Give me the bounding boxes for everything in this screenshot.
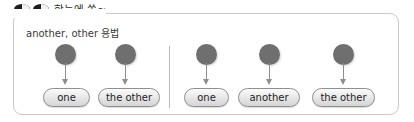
arrow-stem [269, 63, 270, 79]
pill-label-one[interactable]: one [43, 88, 90, 107]
diagram: onethe otheroneanotherthe other [0, 0, 414, 122]
group-divider [169, 46, 170, 108]
arrow-head-icon [266, 79, 272, 85]
arrow-stem [125, 63, 126, 79]
arrow-head-icon [203, 79, 209, 85]
node-circle-icon [259, 44, 280, 65]
arrow-stem [206, 63, 207, 79]
node-circle-icon [333, 44, 354, 65]
pill-label-text: one [57, 93, 76, 103]
pill-label-text: the other [106, 93, 152, 103]
pill-label-one[interactable]: one [184, 88, 229, 107]
arrow-stem [343, 63, 344, 79]
arrow-stem [65, 63, 66, 79]
arrow-head-icon [340, 79, 346, 85]
pill-label-text: the other [320, 93, 366, 103]
pill-label-the-other[interactable]: the other [98, 88, 160, 107]
pill-label-text: another [249, 93, 288, 103]
pill-label-the-other[interactable]: the other [312, 88, 375, 107]
node-circle-icon [115, 44, 136, 65]
pill-label-another[interactable]: another [238, 88, 300, 107]
node-circle-icon [55, 44, 76, 65]
node-circle-icon [196, 44, 217, 65]
arrow-head-icon [122, 79, 128, 85]
arrow-head-icon [62, 79, 68, 85]
pill-label-text: one [197, 93, 216, 103]
